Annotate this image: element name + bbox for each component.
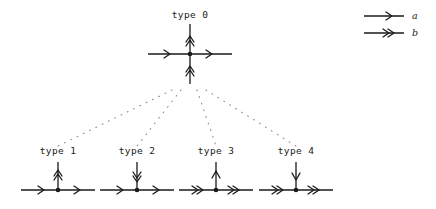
arrow-type-diagram: type 0 type 1 type 2 <box>0 0 436 209</box>
node-label-type4: type 4 <box>278 145 315 156</box>
legend-label-a: a <box>412 10 418 21</box>
type3-center-dot <box>214 188 219 193</box>
type4-center-dot <box>294 188 299 193</box>
type0-center-dot <box>188 52 193 57</box>
legend-label-b: b <box>412 27 418 38</box>
node-label-type3: type 3 <box>198 145 235 156</box>
node-label-type2: type 2 <box>119 145 156 156</box>
type2-center-dot <box>135 188 140 193</box>
node-label-type1: type 1 <box>40 145 77 156</box>
node-label-type0: type 0 <box>172 9 209 20</box>
figure-background <box>0 0 436 209</box>
type1-center-dot <box>56 188 61 193</box>
